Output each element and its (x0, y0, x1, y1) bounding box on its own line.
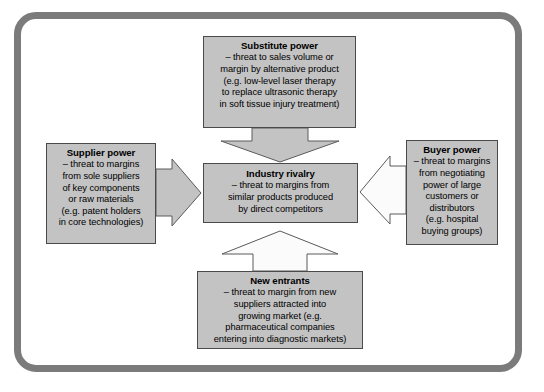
force-body-rivalry: – threat to margins from similar product… (206, 180, 355, 215)
force-body-substitute: – threat to sales volume or margin by al… (206, 52, 353, 110)
force-box-substitute-power[interactable]: Substitute power – threat to sales volum… (203, 36, 356, 128)
force-title-buyer: Buyer power (409, 144, 495, 156)
force-body-entrants: – threat to margin from new suppliers at… (200, 287, 360, 345)
force-title-supplier: Supplier power (49, 147, 153, 159)
force-box-industry-rivalry[interactable]: Industry rivalry – threat to margins fro… (203, 163, 358, 223)
force-body-supplier: – threat to margins from sole suppliers … (49, 159, 153, 229)
force-title-rivalry: Industry rivalry (206, 168, 355, 180)
diagram-canvas: Substitute power – threat to sales volum… (0, 0, 544, 392)
force-body-buyer: – threat to margins from negotiating pow… (409, 156, 495, 237)
force-title-substitute: Substitute power (206, 40, 353, 52)
force-box-supplier-power[interactable]: Supplier power – threat to margins from … (46, 143, 156, 244)
force-box-new-entrants[interactable]: New entrants – threat to margin from new… (197, 271, 363, 349)
force-box-buyer-power[interactable]: Buyer power – threat to margins from neg… (406, 140, 498, 245)
force-title-entrants: New entrants (200, 275, 360, 287)
